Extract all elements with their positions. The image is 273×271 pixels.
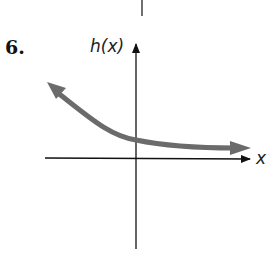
problem-number: 6. — [5, 36, 25, 58]
curve-right-arrowhead-icon — [230, 141, 251, 155]
x-axis — [45, 158, 250, 159]
x-axis-label: x — [256, 148, 266, 168]
y-axis-label: h(x) — [90, 36, 124, 56]
graph-canvas — [0, 0, 273, 271]
function-curve — [58, 93, 235, 148]
